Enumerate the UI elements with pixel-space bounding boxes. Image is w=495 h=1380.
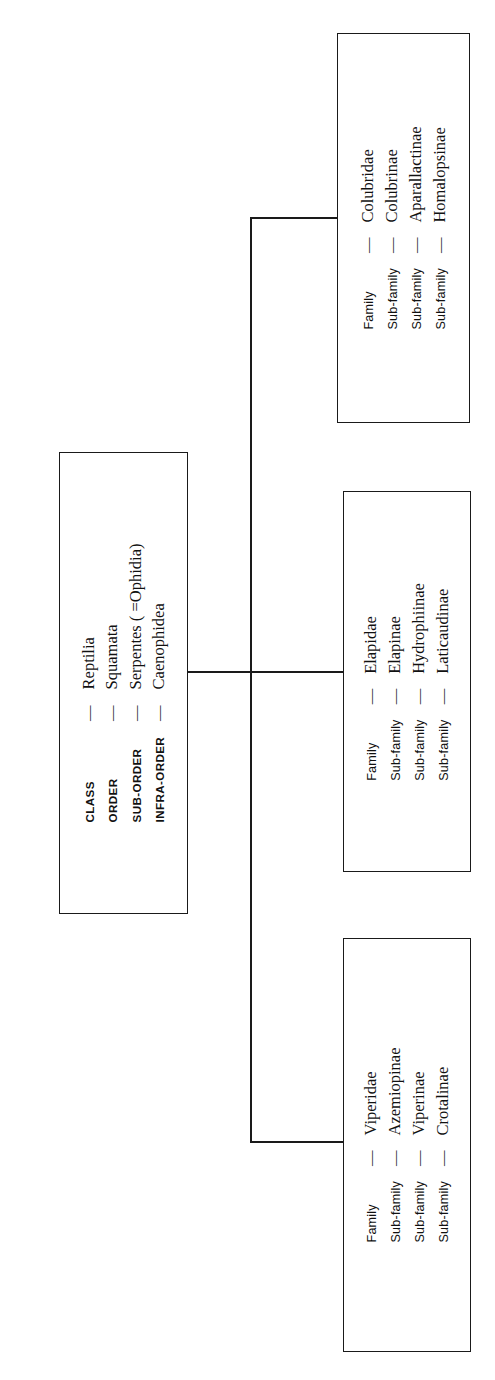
rank-value-class: Reptilia (77, 544, 100, 690)
rank-value-colubridae: Colubridae (356, 126, 380, 222)
table-row: Family — Elapidae (359, 583, 383, 781)
table-row: Sub-family — Hydrophiinae (407, 583, 431, 781)
taxonomy-diagram: CLASS — Reptilia ORDER — Squamata SUB-OR… (0, 0, 495, 1380)
table-row: ORDER — Squamata (100, 544, 123, 823)
rank-value-hydrophiinae: Hydrophiinae (407, 583, 431, 674)
rank-label-family: Family (356, 253, 380, 330)
table-row: Sub-family — Elapinae (383, 583, 407, 781)
rank-value-laticaudinae: Laticaudinae (431, 583, 455, 674)
rank-dash: — (359, 1135, 383, 1166)
viperidae-rank-table: Family — Viperidae Sub-family — Azemiopi… (359, 1048, 455, 1243)
colubridae-rank-table: Family — Colubridae Sub-family — Colubri… (356, 126, 452, 329)
rank-dash: — (77, 689, 100, 721)
rank-dash: — (147, 689, 170, 721)
table-row: Sub-family — Viperinae (407, 1048, 431, 1243)
rank-label-sub-family: Sub-family (427, 253, 451, 330)
viperidae-box: Family — Viperidae Sub-family — Azemiopi… (343, 938, 471, 1352)
rank-label-sub-family: Sub-family (407, 704, 431, 781)
connector-trunk-stem (187, 671, 252, 673)
rank-label-sub-family: Sub-family (431, 1166, 455, 1243)
colubridae-box: Family — Colubridae Sub-family — Colubri… (337, 33, 470, 423)
rank-dash: — (407, 673, 431, 704)
elapidae-rotated-content: Family — Elapidae Sub-family — Elapinae … (359, 583, 455, 781)
table-row: SUB-ORDER — Serpentes ( =Ophidia) (124, 544, 147, 823)
connector-trunk-vertical (250, 217, 252, 1143)
rank-label-sub-family: Sub-family (383, 1166, 407, 1243)
table-row: Family — Colubridae (356, 126, 380, 329)
rank-dash: — (404, 223, 428, 254)
table-row: INFRA-ORDER — Caenophidea (147, 544, 170, 823)
elapidae-box: Family — Elapidae Sub-family — Elapinae … (343, 491, 471, 872)
rank-label-sub-family: Sub-family (383, 704, 407, 781)
rank-label-sub-family: Sub-family (431, 704, 455, 781)
viperidae-rotated-content: Family — Viperidae Sub-family — Azemiopi… (359, 1048, 455, 1243)
connector-branch-colubridae (250, 217, 338, 219)
rank-value-colubrinae: Colubrinae (380, 126, 404, 222)
rank-label-sub-family: Sub-family (407, 1166, 431, 1243)
elapidae-rank-table: Family — Elapidae Sub-family — Elapinae … (359, 583, 455, 781)
rank-dash: — (359, 673, 383, 704)
rank-label-sub-family: Sub-family (380, 253, 404, 330)
rank-dash: — (124, 689, 147, 721)
rank-value-elapinae: Elapinae (383, 583, 407, 674)
table-row: Sub-family — Azemiopinae (383, 1048, 407, 1243)
rank-value-infra-order: Caenophidea (147, 544, 170, 690)
rank-value-azemiopinae: Azemiopinae (383, 1048, 407, 1136)
rank-value-viperidae: Viperidae (359, 1048, 383, 1136)
rank-dash: — (431, 1135, 455, 1166)
rank-label-infra-order: INFRA-ORDER (147, 721, 170, 823)
connector-branch-viperidae (250, 1141, 344, 1143)
rank-dash: — (383, 673, 407, 704)
table-row: Sub-family — Colubrinae (380, 126, 404, 329)
rank-dash: — (383, 1135, 407, 1166)
table-row: Sub-family — Homalopsinae (427, 126, 451, 329)
rank-value-aparallactinae: Aparallactinae (404, 126, 428, 222)
colubridae-rotated-content: Family — Colubridae Sub-family — Colubri… (356, 126, 452, 329)
rank-dash: — (431, 673, 455, 704)
rank-value-sub-order: Serpentes ( =Ophidia) (124, 544, 147, 690)
central-taxonomy-box: CLASS — Reptilia ORDER — Squamata SUB-OR… (59, 452, 188, 914)
table-row: CLASS — Reptilia (77, 544, 100, 823)
table-row: Sub-family — Crotalinae (431, 1048, 455, 1243)
rank-label-family: Family (359, 1166, 383, 1243)
rank-value-homalopsinae: Homalopsinae (427, 126, 451, 222)
rank-dash: — (407, 1135, 431, 1166)
central-rank-table: CLASS — Reptilia ORDER — Squamata SUB-OR… (77, 544, 171, 823)
rank-dash: — (380, 223, 404, 254)
table-row: Sub-family — Laticaudinae (431, 583, 455, 781)
rank-label-sub-order: SUB-ORDER (124, 721, 147, 823)
rank-label-order: ORDER (100, 721, 123, 823)
rank-value-crotalinae: Crotalinae (431, 1048, 455, 1136)
rank-label-class: CLASS (77, 721, 100, 823)
rank-value-viperinae: Viperinae (407, 1048, 431, 1136)
rank-value-order: Squamata (100, 544, 123, 690)
rank-label-sub-family: Sub-family (404, 253, 428, 330)
rank-value-elapidae: Elapidae (359, 583, 383, 674)
rank-label-family: Family (359, 704, 383, 781)
central-box-rotated-content: CLASS — Reptilia ORDER — Squamata SUB-OR… (77, 544, 171, 823)
rank-dash: — (356, 223, 380, 254)
connector-branch-elapidae (250, 671, 344, 673)
rank-dash: — (100, 689, 123, 721)
rank-dash: — (427, 223, 451, 254)
table-row: Sub-family — Aparallactinae (404, 126, 428, 329)
table-row: Family — Viperidae (359, 1048, 383, 1243)
